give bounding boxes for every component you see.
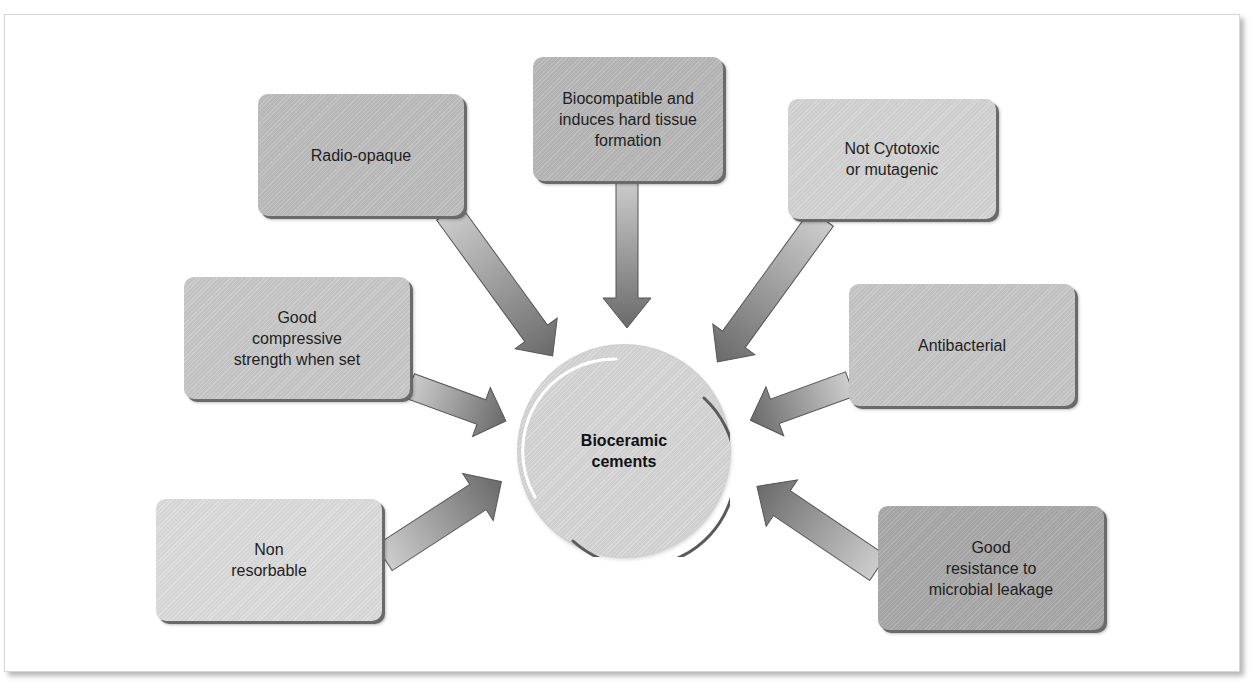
arrow-icon-biocompatible <box>603 180 651 328</box>
arrow-icon-non-resorbable <box>369 458 517 581</box>
node-biocompatible: Biocompatible and induces hard tissue fo… <box>533 57 723 181</box>
node-label: Antibacterial <box>908 335 1016 356</box>
hub-highlight-arcs-icon <box>518 345 730 557</box>
node-label: Good compressive strength when set <box>224 307 370 370</box>
center-node-bioceramic-cements: Bioceramic cements <box>518 345 730 557</box>
node-label: Good resistance to microbial leakage <box>919 537 1064 600</box>
node-label: Biocompatible and induces hard tissue fo… <box>549 88 707 151</box>
node-microbial-leakage: Good resistance to microbial leakage <box>878 506 1104 630</box>
node-not-cytotoxic: Not Cytotoxic or mutagenic <box>788 99 996 219</box>
arrow-icon-microbial-leakage <box>741 463 893 591</box>
node-compressive-strength: Good compressive strength when set <box>184 277 410 399</box>
node-antibacterial: Antibacterial <box>849 284 1075 406</box>
arrow-icon-antibacterial <box>742 360 859 445</box>
node-radio-opaque: Radio-opaque <box>258 94 464 216</box>
node-label: Not Cytotoxic or mutagenic <box>834 138 949 180</box>
node-label: Non resorbable <box>221 539 317 581</box>
node-label: Radio-opaque <box>301 145 422 166</box>
node-non-resorbable: Non resorbable <box>156 499 382 621</box>
arrow-icon-compressive-strength <box>401 362 515 446</box>
